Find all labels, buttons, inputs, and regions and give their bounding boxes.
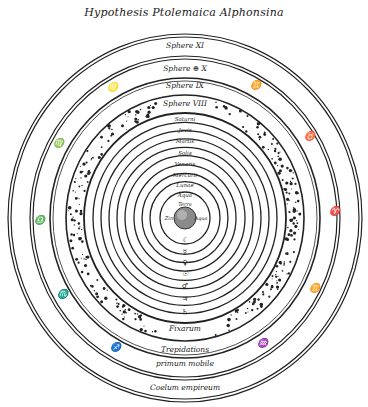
star-dot bbox=[116, 305, 119, 308]
star-dot bbox=[263, 133, 266, 136]
star-dot bbox=[278, 172, 281, 175]
star-dot bbox=[86, 161, 88, 163]
star-dot bbox=[85, 259, 87, 261]
star-dot bbox=[71, 247, 74, 250]
star-dot bbox=[257, 308, 259, 310]
star-dot bbox=[253, 298, 256, 301]
star-dot bbox=[74, 224, 75, 225]
star-dot bbox=[103, 287, 106, 290]
star-dot bbox=[78, 222, 81, 225]
star-dot bbox=[84, 190, 86, 192]
star-dot bbox=[128, 110, 131, 113]
star-dot bbox=[278, 278, 281, 281]
planet-symbol: ♄ bbox=[182, 308, 188, 316]
star-dot bbox=[73, 234, 75, 236]
star-dot bbox=[96, 295, 99, 298]
star-dot bbox=[84, 174, 87, 177]
star-dot bbox=[248, 311, 249, 312]
star-dot bbox=[144, 330, 147, 333]
star-dot bbox=[125, 312, 127, 314]
star-dot bbox=[276, 271, 277, 272]
star-dot bbox=[262, 146, 265, 149]
zodiac-virgo-icon: ♍ bbox=[53, 137, 66, 148]
star-dot bbox=[121, 124, 124, 127]
star-dot bbox=[140, 109, 142, 111]
star-dot bbox=[253, 301, 256, 304]
star-dot bbox=[215, 106, 218, 109]
star-dot bbox=[259, 136, 262, 139]
star-dot bbox=[276, 143, 278, 145]
star-dot bbox=[128, 308, 131, 311]
star-dot bbox=[259, 139, 260, 140]
star-dot bbox=[288, 200, 289, 201]
star-dot bbox=[278, 152, 280, 154]
planet-symbol: ♀ bbox=[182, 259, 187, 267]
star-dot bbox=[78, 228, 80, 230]
star-dot bbox=[265, 283, 268, 286]
star-dot bbox=[282, 179, 284, 181]
star-dot bbox=[262, 293, 264, 295]
star-dot bbox=[78, 237, 81, 240]
star-dot bbox=[283, 263, 285, 265]
star-dot bbox=[281, 165, 284, 168]
bottom-sphere-label: Fixarum bbox=[168, 324, 201, 333]
star-dot bbox=[81, 240, 84, 243]
star-dot bbox=[139, 318, 142, 321]
star-dot bbox=[80, 171, 83, 174]
planet-symbol: ☉ bbox=[182, 270, 189, 278]
planet-sphere-label: Lunae bbox=[175, 182, 194, 188]
star-dot bbox=[126, 129, 127, 130]
star-dot bbox=[256, 126, 259, 129]
star-dot bbox=[138, 119, 140, 121]
star-dot bbox=[72, 190, 74, 192]
planet-sphere-label: Jovis bbox=[177, 127, 191, 134]
star-dot bbox=[293, 222, 295, 224]
star-dot bbox=[290, 182, 293, 185]
star-dot bbox=[286, 252, 288, 254]
star-dot bbox=[293, 232, 296, 235]
star-dot bbox=[70, 213, 72, 215]
star-dot bbox=[279, 151, 280, 152]
star-dot bbox=[91, 159, 92, 160]
star-dot bbox=[239, 110, 242, 113]
star-dot bbox=[75, 192, 76, 193]
star-dot bbox=[230, 314, 231, 315]
star-dot bbox=[68, 206, 72, 210]
star-dot bbox=[272, 275, 274, 277]
star-dot bbox=[287, 203, 288, 204]
star-dot bbox=[271, 285, 274, 288]
planet-sphere-label: Mercurii bbox=[172, 172, 198, 178]
star-dot bbox=[100, 300, 103, 303]
star-dot bbox=[125, 114, 126, 115]
star-dot bbox=[80, 210, 83, 213]
star-dot bbox=[80, 166, 81, 167]
star-dot bbox=[257, 122, 260, 125]
star-dot bbox=[293, 172, 294, 173]
star-dot bbox=[237, 312, 238, 313]
star-dot bbox=[272, 278, 273, 279]
star-dot bbox=[107, 140, 109, 142]
star-dot bbox=[81, 271, 84, 274]
star-dot bbox=[79, 204, 80, 205]
star-dot bbox=[271, 143, 273, 145]
star-dot bbox=[257, 133, 259, 135]
star-dot bbox=[78, 262, 80, 264]
ptolemaic-diagram: Sphere XISphere ⊕ XSphere IXSphere VIIIS… bbox=[0, 0, 368, 407]
star-dot bbox=[111, 129, 113, 131]
star-dot bbox=[245, 130, 247, 132]
earth-globe bbox=[174, 207, 196, 229]
star-dot bbox=[297, 200, 300, 203]
star-dot bbox=[289, 261, 291, 263]
star-dot bbox=[100, 153, 103, 156]
star-dot bbox=[298, 213, 301, 216]
star-dot bbox=[95, 292, 98, 295]
star-dot bbox=[134, 118, 137, 121]
zodiac-leo-icon: ♌ bbox=[107, 81, 120, 92]
star-dot bbox=[128, 116, 129, 117]
star-dot bbox=[285, 181, 288, 184]
star-dot bbox=[137, 313, 139, 315]
star-dot bbox=[289, 229, 292, 232]
star-dot bbox=[249, 301, 251, 303]
sphere-label: Sphere XI bbox=[166, 41, 205, 50]
center-label-left: Zin bbox=[164, 215, 173, 221]
